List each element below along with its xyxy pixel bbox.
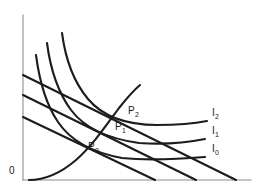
point-label-p0: P0 (88, 142, 99, 154)
point-label-p2: P2 (128, 106, 139, 118)
point-label-p1-sub: 1 (122, 127, 126, 134)
indifference-curve-i1 (47, 43, 205, 144)
point-label-p2-base: P (128, 105, 135, 116)
curve-label-i1: I1 (212, 126, 219, 138)
origin-label: 0 (9, 166, 15, 176)
indifference-curve-figure: 0 P0 P1 P2 I2 I1 I0 (0, 0, 259, 196)
figure-canvas (0, 0, 259, 196)
budget-line-2 (23, 75, 236, 180)
curve-label-i2-sub: 2 (215, 113, 219, 120)
point-label-p2-sub: 2 (135, 111, 139, 118)
curve-label-i0-sub: 0 (215, 149, 219, 156)
point-label-p1: P1 (115, 122, 126, 134)
point-label-p1-base: P (115, 121, 122, 132)
point-label-p0-sub: 0 (95, 147, 99, 154)
curve-label-i0: I0 (212, 144, 219, 156)
curve-label-i2: I2 (212, 108, 219, 120)
point-label-p0-base: P (88, 141, 95, 152)
curve-label-i1-sub: 1 (215, 131, 219, 138)
budget-line-1 (23, 95, 196, 180)
